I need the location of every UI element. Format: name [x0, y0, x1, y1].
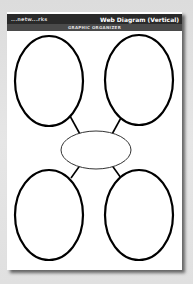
- node-bottom-right[interactable]: [105, 170, 173, 260]
- web-diagram: [7, 12, 182, 270]
- node-top-right[interactable]: [105, 35, 173, 125]
- worksheet-page: ...netw...rks Web Diagram (Vertical) GRA…: [7, 12, 182, 270]
- node-top-left[interactable]: [15, 36, 83, 126]
- node-center[interactable]: [61, 131, 131, 169]
- node-bottom-left[interactable]: [15, 170, 83, 260]
